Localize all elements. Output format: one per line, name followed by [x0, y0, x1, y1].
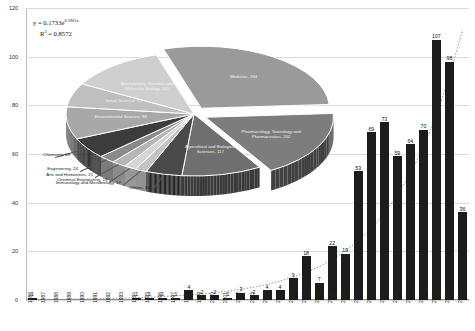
pie-slice-depth: [311, 150, 314, 172]
pie-slice-depth: [291, 162, 295, 184]
pie-slice-depth: [175, 175, 176, 195]
pie-slice-depth: [92, 151, 93, 172]
pie-slice-depth: [257, 167, 260, 188]
pie-slice-depth: [181, 176, 182, 196]
pie-slice-depth: [239, 172, 242, 193]
pie-slice-depth: [219, 174, 222, 194]
bar: [432, 40, 441, 300]
x-axis-tick-label: 2015: [406, 281, 411, 303]
bar: [380, 122, 389, 300]
pie-slice-depth: [188, 176, 191, 196]
x-axis-tick-label: 2007: [302, 281, 307, 303]
pie-slice-depth: [93, 152, 94, 173]
pie-slice-depth: [97, 154, 98, 175]
pie-slice-depth: [199, 176, 202, 196]
pie-slice-depth: [241, 171, 244, 192]
pie-slice-depth: [82, 144, 83, 165]
pie-slice-depth: [228, 173, 231, 193]
pie-slice-depth: [196, 176, 199, 196]
pie-slice-depth: [231, 173, 234, 193]
pie-slice-depth: [327, 135, 329, 157]
x-axis-tick-label: 1987: [41, 281, 46, 303]
pie-slice-depth: [287, 163, 291, 185]
bar-value-label: 19: [342, 247, 348, 253]
x-axis-tick-label: 1988: [54, 281, 59, 303]
pie-slice-depth: [174, 175, 175, 195]
pie-slice-depth: [328, 133, 329, 155]
pie-slice-label: Chemistry, 63: [4, 152, 70, 157]
pie-slice-depth: [182, 176, 185, 196]
x-axis-tick-label: 2006: [289, 281, 294, 303]
pie-slice-depth: [86, 147, 87, 168]
x-axis-labels: 1986198719881989199019911992199319941995…: [26, 303, 469, 329]
pie-slice-label: Chemical Engineering, 18: [41, 177, 107, 182]
pie-slice-depth: [159, 174, 160, 194]
x-axis-tick-label: 1993: [119, 281, 124, 303]
pie-slice-depth: [82, 144, 83, 165]
x-axis-tick-label: 1991: [93, 281, 98, 303]
bar-value-label: 69: [368, 126, 374, 132]
x-axis-tick-label: 2019: [458, 281, 463, 303]
bar-value-label: 9: [292, 272, 295, 278]
bar-value-label: 98: [447, 55, 453, 61]
x-axis-tick-label: 2004: [263, 281, 268, 303]
x-axis-tick-label: 2008: [315, 281, 320, 303]
x-axis-tick-label: 1989: [67, 281, 72, 303]
bar-item: 53: [354, 165, 363, 300]
bar: [445, 62, 454, 300]
x-axis-tick-label: 2001: [223, 281, 228, 303]
pie-slice-depth: [249, 169, 252, 190]
bar-value-label: 59: [394, 150, 400, 156]
pie-slice-depth: [99, 155, 100, 176]
pie-slice-label: Social Science, 72: [90, 98, 156, 103]
pie-slice-label: Agricultural and Biological Sciences, 11…: [177, 144, 243, 154]
x-axis-tick-label: 2003: [250, 281, 255, 303]
pie-slice-depth: [70, 130, 71, 151]
pie-slice-depth: [308, 152, 311, 174]
pie-slice-depth: [69, 128, 70, 149]
pie-slice-depth: [168, 175, 169, 195]
pie-slice-depth: [165, 174, 166, 194]
pie-slice-depth: [94, 152, 95, 173]
pie-slice-depth: [79, 142, 80, 163]
pie-slice-depth: [208, 175, 211, 195]
bar: [367, 132, 376, 300]
pie-slice-depth: [70, 129, 71, 150]
pie-slice-depth: [169, 175, 170, 195]
y-axis-tick-label: 0: [0, 297, 18, 303]
pie-slice-depth: [214, 175, 217, 195]
x-axis-tick-label: 2005: [276, 281, 281, 303]
bar-value-label: 53: [355, 165, 361, 171]
pie-slice-depth: [205, 176, 208, 196]
pie-slice-label: Engineering, 24: [12, 166, 78, 171]
y-axis-tick-label: 100: [0, 54, 18, 60]
x-axis-tick-label: 1999: [197, 281, 202, 303]
bar-item: 59: [393, 150, 402, 300]
x-axis-tick-label: 2012: [367, 281, 372, 303]
x-axis-tick-label: 1990: [80, 281, 85, 303]
pie-slice-depth: [179, 176, 180, 196]
pie-slice-depth: [91, 151, 92, 172]
x-axis-tick-label: 2002: [236, 281, 241, 303]
bar-item: 107: [432, 33, 441, 300]
pie-slice-depth: [85, 146, 86, 167]
pie-slice-depth: [72, 132, 73, 153]
pie-slice-depth: [284, 165, 288, 187]
pie-slice-depth: [271, 169, 275, 190]
pie-slice-label: Others, 53: [84, 185, 150, 190]
pie-slice-depth: [222, 174, 225, 194]
pie-slice-depth: [275, 168, 279, 189]
pie-slice-label: Pharmacology, Toxicology and Pharmaceuti…: [238, 129, 304, 139]
pie-slice-depth: [305, 154, 308, 176]
y-axis-tick-label: 40: [0, 200, 18, 206]
pie-slice-depth: [325, 137, 327, 159]
bar-item: 73: [380, 116, 389, 300]
pie-slice-depth: [69, 127, 70, 148]
pie-slice-depth: [314, 148, 317, 170]
pie-top-layer: [66, 46, 333, 176]
pie-slice-label: Biochemistry, Genetics and Molecular Bio…: [114, 81, 180, 91]
pie-slice-depth: [74, 136, 75, 157]
pie-slice-depth: [236, 172, 239, 192]
bar: [393, 156, 402, 300]
pie-slice-depth: [323, 140, 325, 162]
